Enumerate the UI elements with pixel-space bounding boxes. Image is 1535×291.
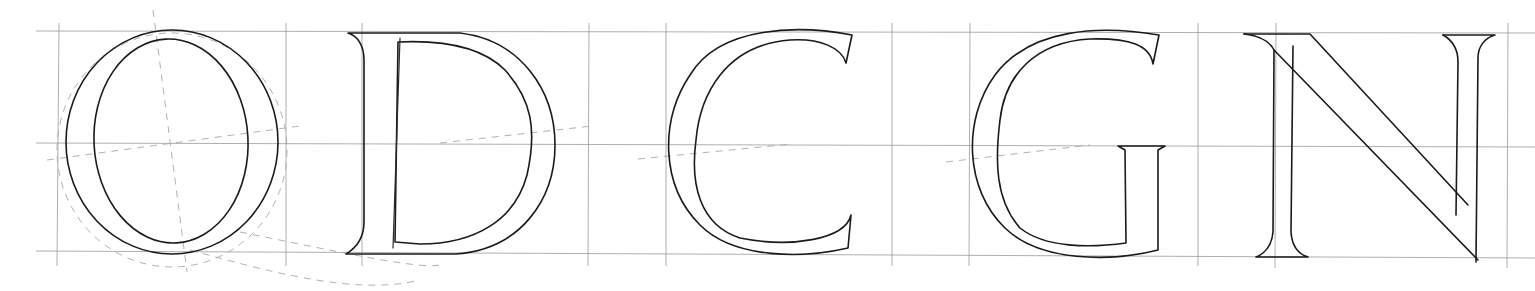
letter-o (66, 30, 278, 254)
letter-c (669, 30, 852, 255)
cap-line (36, 31, 1535, 33)
letter-n (1244, 34, 1495, 262)
construction-guides (47, 10, 1090, 285)
letter-d (346, 33, 555, 254)
letter-g (972, 30, 1165, 257)
letter-sketch-canvas (0, 0, 1535, 291)
construction-grid (36, 23, 1535, 268)
